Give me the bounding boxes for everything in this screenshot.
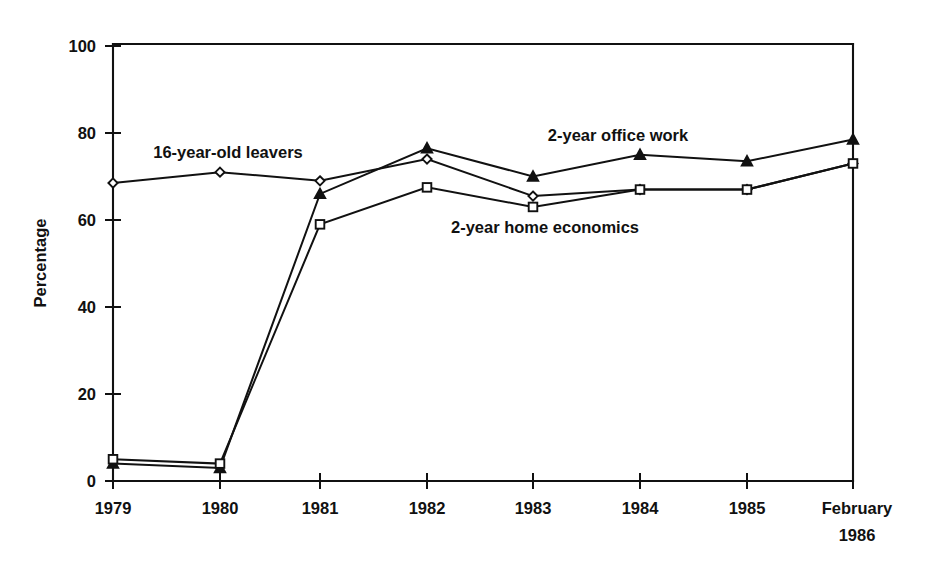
series-point-2-year-office-work-1983 — [528, 171, 538, 180]
series-annotations: 16-year-old leavers 2-year office work 2… — [153, 126, 689, 236]
x-tick-label-1982: 1982 — [409, 499, 446, 517]
x-tick-label-1985: 1985 — [729, 499, 766, 517]
series-point-2-year-home-economics-1980 — [216, 459, 225, 468]
chart-series-layer — [108, 134, 858, 472]
series-point-2-year-office-work-1981 — [315, 189, 325, 198]
y-tick-label-40: 40 — [78, 298, 96, 316]
x-tick-label-1986-year: 1986 — [839, 526, 876, 544]
chart-container: 0 20 40 60 80 100 Percentage 1979 1980 1… — [0, 0, 925, 575]
series-point-16-year-old-leavers-1981 — [315, 176, 324, 185]
annotation-2-year-office-work: 2-year office work — [548, 126, 689, 144]
series-point-16-year-old-leavers-1980 — [215, 168, 224, 177]
y-tick-label-80: 80 — [78, 124, 96, 142]
x-tick-label-1984: 1984 — [622, 499, 660, 517]
series-point-2-year-home-economics-1979 — [109, 455, 118, 464]
series-point-2-year-office-work-1985 — [742, 156, 752, 165]
line-chart: 0 20 40 60 80 100 Percentage 1979 1980 1… — [0, 0, 925, 575]
annotation-16-year-old-leavers: 16-year-old leavers — [153, 143, 303, 161]
series-point-2-year-home-economics-1984 — [636, 185, 645, 194]
series-point-2-year-home-economics-1985 — [743, 185, 752, 194]
x-tick-label-1980: 1980 — [202, 499, 239, 517]
series-point-16-year-old-leavers-1983 — [528, 191, 537, 200]
series-line-2-year-home-economics — [113, 163, 853, 463]
chart-axes — [113, 44, 853, 481]
series-point-2-year-home-economics-february-1986 — [849, 159, 858, 168]
x-tick-label-1979: 1979 — [95, 499, 132, 517]
y-tick-label-20: 20 — [78, 385, 96, 403]
series-point-2-year-home-economics-1981 — [316, 220, 325, 229]
series-point-2-year-office-work-february-1986 — [848, 134, 858, 143]
y-axis-title: Percentage — [31, 219, 49, 308]
y-tick-label-60: 60 — [78, 211, 96, 229]
series-point-2-year-home-economics-1982 — [423, 183, 432, 192]
series-2-year-home-economics — [109, 159, 858, 468]
x-tick-label-1986-month: February — [822, 499, 893, 517]
x-tick-label-1981: 1981 — [302, 499, 339, 517]
series-point-16-year-old-leavers-1979 — [108, 178, 117, 187]
y-axis-labels: 0 20 40 60 80 100 — [68, 37, 96, 490]
annotation-2-year-home-economics: 2-year home economics — [451, 218, 639, 236]
series-point-16-year-old-leavers-1982 — [422, 155, 431, 164]
y-tick-label-0: 0 — [87, 472, 96, 490]
x-axis-labels: 1979 1980 1981 1982 1983 1984 1985 Febru… — [95, 499, 893, 544]
x-tick-label-1983: 1983 — [515, 499, 552, 517]
y-tick-label-100: 100 — [68, 37, 96, 55]
series-point-2-year-office-work-1984 — [635, 150, 645, 159]
series-point-2-year-home-economics-1983 — [529, 203, 538, 212]
series-point-2-year-office-work-1982 — [422, 143, 432, 152]
